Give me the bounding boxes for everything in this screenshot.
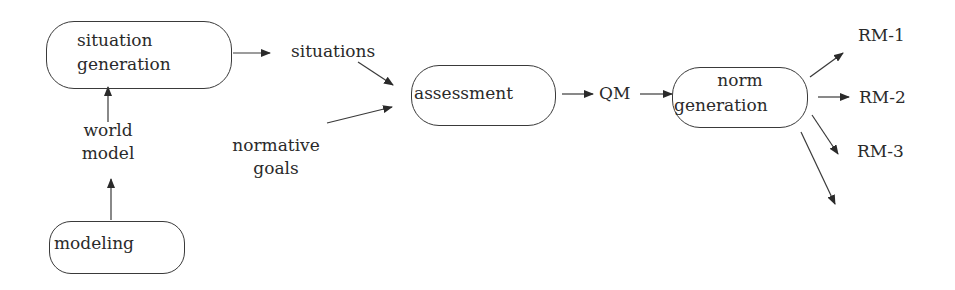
- edge-situations-to-assessment: [358, 62, 393, 85]
- label-world-model-line1: world: [76, 120, 140, 141]
- label-rm1: RM-1: [858, 25, 905, 46]
- node-situation-generation-line2: generation: [77, 54, 171, 75]
- label-situations: situations: [291, 41, 375, 62]
- label-normative-goals-line2: goals: [224, 158, 328, 179]
- edge-norm-generation-to-rm1: [810, 53, 843, 77]
- node-situation-generation-line1: situation: [77, 30, 153, 51]
- label-normative-goals-line1: normative: [224, 135, 328, 156]
- node-norm-generation-line1: norm: [672, 70, 808, 91]
- edge-norm-generation-to-rm3: [812, 115, 838, 154]
- label-rm2: RM-2: [859, 87, 906, 108]
- diagram-canvas: situation generation situations world mo…: [0, 0, 955, 290]
- label-rm3: RM-3: [857, 141, 904, 162]
- node-modeling-label: modeling: [54, 233, 134, 254]
- label-world-model-line2: model: [76, 143, 140, 164]
- node-norm-generation-line2: generation: [674, 95, 768, 116]
- node-assessment-label: assessment: [414, 83, 513, 104]
- label-qm: QM: [599, 83, 630, 104]
- edge-normative-goals-to-assessment: [327, 107, 392, 123]
